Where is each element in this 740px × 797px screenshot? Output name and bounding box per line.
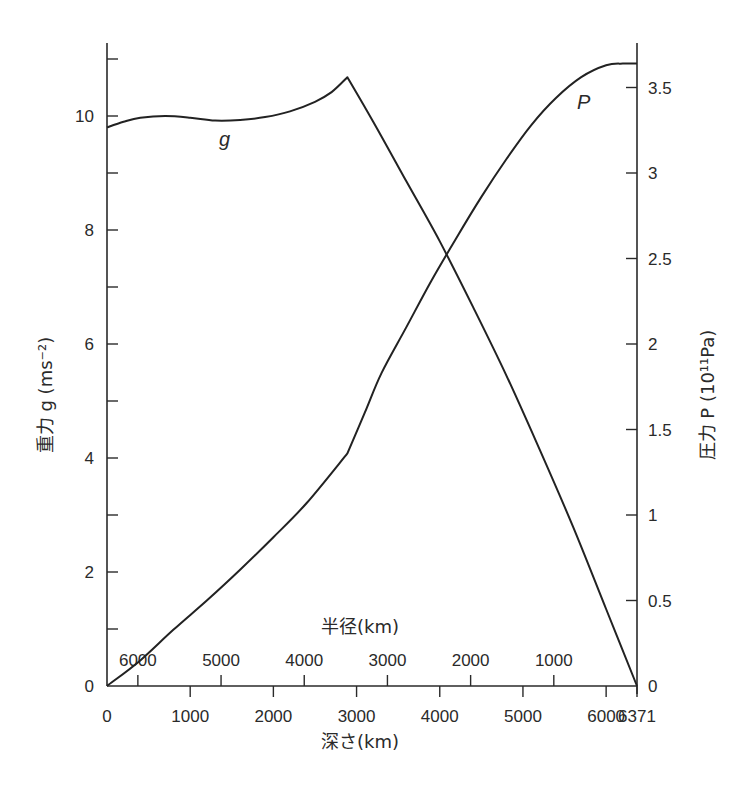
left-tick-label: 0 <box>85 677 94 696</box>
depth-tick-label: 6371 <box>618 707 656 726</box>
gravity-series-label: g <box>219 128 230 150</box>
right-tick-label: 0 <box>648 677 657 696</box>
gravity-pressure-chart: 0246810 00.511.522.533.5 010002000300040… <box>0 0 740 797</box>
right-tick-label: 2.5 <box>648 250 672 269</box>
left-tick-label: 6 <box>85 335 94 354</box>
left-tick-label: 2 <box>85 563 94 582</box>
gravity-axis-title: 重力 g (ms⁻²) <box>35 337 56 454</box>
right-tick-label: 1 <box>648 506 657 525</box>
depth-tick-label: 1000 <box>171 707 209 726</box>
left-ticks: 0246810 <box>75 59 118 696</box>
depth-tick-label: 3000 <box>338 707 376 726</box>
axes <box>107 43 637 694</box>
right-tick-label: 2 <box>648 335 657 354</box>
right-tick-label: 0.5 <box>648 592 672 611</box>
left-tick-label: 8 <box>85 221 94 240</box>
right-tick-label: 3.5 <box>648 79 672 98</box>
depth-tick-label: 0 <box>102 707 111 726</box>
depth-ticks: 01000200030004000500060006371 <box>102 686 656 726</box>
radius-tick-label: 2000 <box>452 651 490 670</box>
left-tick-label: 4 <box>85 449 94 468</box>
depth-tick-label: 4000 <box>421 707 459 726</box>
radius-ticks: 600050004000300020001000 <box>119 651 573 686</box>
pressure-series-label: P <box>577 91 591 113</box>
left-tick-label: 10 <box>75 107 94 126</box>
pressure-axis-title: 圧力 P (10¹¹Pa) <box>697 330 718 461</box>
depth-axis-title: 深さ(km) <box>321 731 399 752</box>
right-ticks: 00.511.522.533.5 <box>626 79 672 697</box>
gravity-curve <box>107 77 637 686</box>
radius-axis-title: 半径(km) <box>321 616 399 637</box>
radius-tick-label: 6000 <box>119 651 157 670</box>
depth-tick-label: 5000 <box>504 707 542 726</box>
pressure-curve <box>107 63 637 686</box>
radius-tick-label: 4000 <box>285 651 323 670</box>
radius-tick-label: 3000 <box>369 651 407 670</box>
right-tick-label: 3 <box>648 164 657 183</box>
right-tick-label: 1.5 <box>648 421 672 440</box>
radius-tick-label: 1000 <box>535 651 573 670</box>
radius-tick-label: 5000 <box>202 651 240 670</box>
depth-tick-label: 2000 <box>254 707 292 726</box>
